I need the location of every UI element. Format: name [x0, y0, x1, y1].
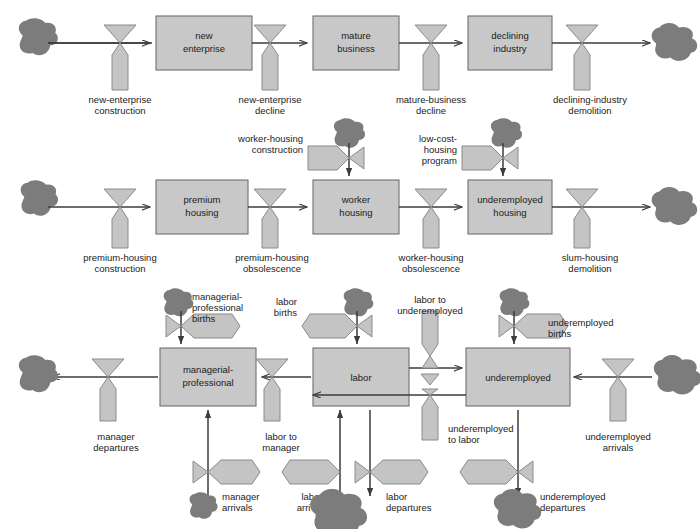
flow-label-slum-housing-demolition-line1: slum-housing — [562, 252, 619, 263]
flow-label-premium-housing-construction-line2: construction — [94, 263, 145, 274]
flow-label-labor-to-underemployed-line2: underemployed — [397, 305, 463, 316]
flow-label-labor-to-manager-line1: labor to — [265, 431, 297, 442]
flow-label-underemployed-to-labor-line1: underemployed — [448, 423, 514, 434]
stock-label-underemployed-housing-line2: housing — [493, 207, 526, 218]
valve-labor-arrivals[interactable] — [282, 460, 340, 484]
flow-label-declining-industry-demolition-line1: declining-industry — [553, 94, 627, 105]
flow-label-manager-arrivals-line2: arrivals — [222, 502, 253, 513]
flow-label-worker-housing-obsolescence-line2: obsolescence — [402, 263, 460, 274]
flow-label-labor-departures-line2: departures — [386, 502, 432, 513]
flow-label-premium-housing-obsolescence-line1: premium-housing — [235, 252, 308, 263]
flow-label-labor-births-line2: births — [274, 307, 297, 318]
flow-label-new-enterprise-decline-line1: new-enterprise — [239, 94, 302, 105]
stock-label-declining-industry-line1: declining — [491, 30, 529, 41]
stock-underemployed-housing[interactable]: underemployed housing — [468, 180, 552, 234]
stock-label-underemployed: underemployed — [485, 372, 551, 383]
flow-label-underemployed-arrivals-line1: underemployed — [585, 431, 651, 442]
stock-label-underemployed-housing-line1: underemployed — [477, 194, 543, 205]
flow-label-underemployed-to-labor-line2: to labor — [448, 434, 480, 445]
flow-label-underemployed-births-line1: underemployed — [548, 317, 614, 328]
stock-mature-business[interactable]: mature business — [313, 16, 399, 70]
flow-label-low-cost-housing-program-line2: housing — [424, 144, 457, 155]
flow-label-labor-departures-line1: labor — [386, 491, 407, 502]
stock-underemployed[interactable]: underemployed — [466, 348, 570, 406]
flow-label-mature-business-decline-line2: decline — [416, 105, 446, 116]
flow-label-managerial-professional-births-line3: births — [192, 313, 215, 324]
urban-dynamics-diagram: new-enterprise construction new enterpri… — [0, 0, 700, 529]
stock-label-mature-business-line1: mature — [341, 30, 371, 41]
stock-labor[interactable]: labor — [313, 348, 409, 406]
stock-managerial-professional[interactable]: managerial- professional — [160, 348, 256, 406]
flow-label-underemployed-arrivals-line2: arrivals — [603, 442, 634, 453]
flow-label-declining-industry-demolition-line2: demolition — [568, 105, 611, 116]
stock-label-managerial-professional-line1: managerial- — [183, 364, 233, 375]
cloud-source-underemployed-arrivals — [654, 355, 700, 394]
stock-label-managerial-professional-line2: professional — [182, 377, 233, 388]
stock-label-labor: labor — [350, 372, 371, 383]
stock-premium-housing[interactable]: premium housing — [156, 180, 248, 234]
stock-label-mature-business-line2: business — [337, 43, 375, 54]
flow-label-new-enterprise-decline-line2: decline — [255, 105, 285, 116]
flow-label-managerial-professional-births-line1: managerial- — [192, 291, 242, 302]
flow-label-manager-departures-line1: manager — [97, 431, 135, 442]
flow-label-underemployed-departures-line1: underemployed — [540, 491, 606, 502]
flow-label-mature-business-decline-line1: mature-business — [396, 94, 466, 105]
stock-label-declining-industry-line2: industry — [493, 43, 527, 54]
diagram-canvas: new-enterprise construction new enterpri… — [0, 0, 700, 529]
flow-label-underemployed-births-line2: births — [548, 328, 571, 339]
flow-label-worker-housing-construction-line1: worker-housing — [237, 133, 303, 144]
stock-label-premium-housing-line2: housing — [185, 207, 218, 218]
flow-label-premium-housing-construction-line1: premium-housing — [83, 252, 156, 263]
flow-label-worker-housing-obsolescence-line1: worker-housing — [398, 252, 464, 263]
stock-label-new-enterprise-line2: enterprise — [183, 43, 225, 54]
flow-label-labor-to-manager-line2: manager — [262, 442, 300, 453]
flow-label-new-enterprise-construction-line2: construction — [94, 105, 145, 116]
flow-label-labor-to-underemployed-line1: labor to — [414, 294, 446, 305]
stock-new-enterprise[interactable]: new enterprise — [156, 16, 252, 70]
flow-label-premium-housing-obsolescence-line2: obsolescence — [243, 263, 301, 274]
flow-label-underemployed-departures-line2: departures — [540, 502, 586, 513]
flow-label-low-cost-housing-program-line1: low-cost- — [419, 133, 457, 144]
flow-label-worker-housing-construction-line2: construction — [252, 144, 303, 155]
flow-label-new-enterprise-construction-line1: new-enterprise — [89, 94, 152, 105]
stock-label-premium-housing-line1: premium — [184, 194, 221, 205]
stock-worker-housing[interactable]: worker housing — [313, 180, 399, 234]
flow-label-manager-departures-line2: departures — [93, 442, 139, 453]
flow-label-slum-housing-demolition-line2: demolition — [568, 263, 611, 274]
stock-label-new-enterprise-line1: new — [195, 30, 213, 41]
flow-label-labor-births-line1: labor — [276, 296, 297, 307]
stock-declining-industry[interactable]: declining industry — [468, 16, 552, 70]
stock-label-worker-housing-line2: housing — [339, 207, 372, 218]
flow-label-manager-arrivals-line1: manager — [222, 491, 260, 502]
stock-label-worker-housing-line1: worker — [341, 194, 371, 205]
flow-label-managerial-professional-births-line2: professional — [192, 302, 243, 313]
flow-label-low-cost-housing-program-line3: program — [422, 155, 457, 166]
